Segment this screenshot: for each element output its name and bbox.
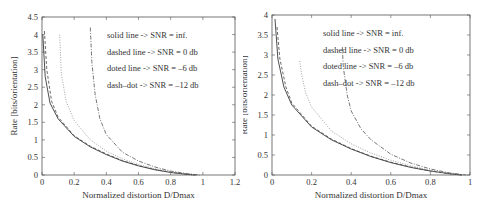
chart-right: 00.20.40.60.8100.511.522.533.54Normalize… — [243, 0, 486, 209]
x-tick-label: 0.2 — [69, 177, 80, 187]
y-tick-label: 4.5 — [27, 12, 38, 22]
x-tick-label: 0.2 — [306, 177, 317, 187]
chart-right-svg: 00.20.40.60.8100.511.522.533.54Normalize… — [243, 0, 486, 209]
x-axis-label: Normalized distortion D/Dmax — [82, 190, 195, 200]
y-tick-label: 2.5 — [257, 70, 268, 80]
y-tick-label: 2.5 — [27, 82, 38, 92]
y-tick-label: 2 — [34, 100, 38, 110]
y-tick-label: 1.5 — [257, 110, 268, 120]
x-tick-label: 1 — [201, 177, 205, 187]
x-tick-label: 0 — [270, 177, 274, 187]
chart-left-svg: 00.20.40.60.811.200.511.522.533.544.5Nor… — [0, 0, 243, 209]
series-line-solid — [275, 19, 462, 175]
y-tick-label: 4 — [264, 10, 269, 20]
legend-annotation: dash–dot -> SNR = –12 db — [323, 78, 415, 88]
y-tick-label: 1 — [264, 130, 268, 140]
y-tick-label: 0.5 — [27, 152, 38, 162]
legend-annotation: doted line -> SNR = –6 db — [107, 63, 197, 73]
x-tick-label: 0.8 — [425, 177, 436, 187]
x-tick-label: 1.2 — [230, 177, 241, 187]
y-axis-label: Rate [bits/orientation] — [9, 56, 19, 135]
y-tick-label: 0.5 — [257, 150, 268, 160]
y-tick-label: 4 — [34, 30, 39, 40]
legend-annotation: solid line -> SNR = inf. — [323, 28, 403, 38]
y-tick-label: 1.5 — [27, 117, 38, 127]
x-tick-label: 0.4 — [101, 177, 112, 187]
x-tick-label: 0.6 — [133, 177, 144, 187]
legend-annotation: solid line -> SNR = inf. — [107, 30, 187, 40]
x-tick-label: 1 — [468, 177, 472, 187]
x-tick-label: 0 — [40, 177, 44, 187]
y-axis-label: Rate [bits/orientation] — [243, 55, 249, 134]
y-tick-label: 0 — [34, 170, 38, 180]
plot-frame — [42, 17, 235, 175]
y-tick-label: 2 — [264, 90, 268, 100]
x-tick-label: 0.4 — [346, 177, 357, 187]
legend-annotation: dashed line -> SNR = 0 db — [107, 47, 198, 57]
x-tick-label: 0.8 — [165, 177, 176, 187]
plot-frame — [272, 15, 470, 175]
legend-annotation: dash–dot -> SNR = –12 db — [107, 80, 199, 90]
x-tick-label: 0.6 — [385, 177, 396, 187]
y-tick-label: 0 — [264, 170, 268, 180]
legend-annotation: doted line -> SNR = –6 db — [323, 61, 413, 71]
y-tick-label: 3.5 — [257, 30, 268, 40]
y-tick-label: 3 — [34, 65, 38, 75]
x-axis-label: Normalized distortion D/Dmax — [315, 190, 428, 200]
y-tick-label: 3.5 — [27, 47, 38, 57]
y-tick-label: 3 — [264, 50, 268, 60]
y-tick-label: 1 — [34, 135, 38, 145]
legend-annotation: dashed line -> SNR = 0 db — [323, 45, 414, 55]
chart-left: 00.20.40.60.811.200.511.522.533.544.5Nor… — [0, 0, 243, 209]
